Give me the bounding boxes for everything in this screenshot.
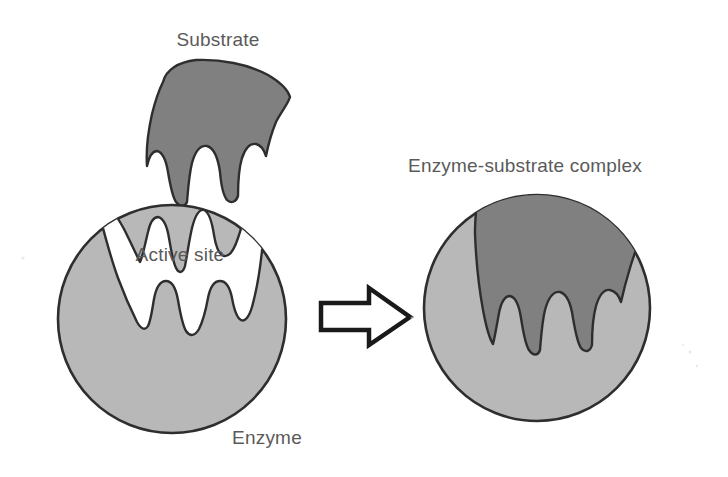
enzyme-diagram: Substrate Active site Enzyme Enzyme-subs… bbox=[0, 0, 728, 477]
complex-label: Enzyme-substrate complex bbox=[408, 155, 642, 176]
substrate-group bbox=[147, 60, 290, 206]
arrow-right-icon bbox=[321, 288, 410, 345]
enzyme-group bbox=[58, 194, 286, 433]
enzyme-label: Enzyme bbox=[232, 427, 302, 448]
complex-group bbox=[424, 190, 650, 421]
diagram-canvas: Substrate Active site Enzyme Enzyme-subs… bbox=[0, 0, 728, 477]
active-site-label: Active site bbox=[136, 244, 225, 265]
substrate-shape bbox=[147, 60, 290, 206]
substrate-label: Substrate bbox=[176, 29, 259, 50]
transformation-arrow bbox=[321, 288, 410, 345]
